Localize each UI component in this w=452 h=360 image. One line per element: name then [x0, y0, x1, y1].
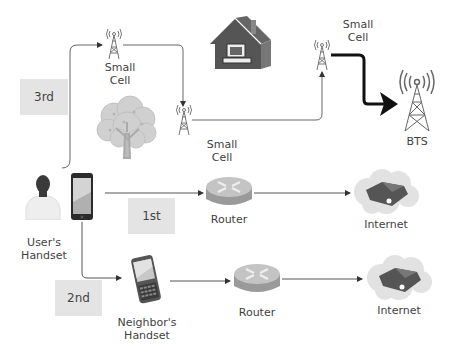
- cell-tower-icon: [173, 104, 195, 136]
- step-second-label: 2nd: [67, 291, 90, 305]
- internet-b-label: Internet: [367, 304, 431, 317]
- router-b-label: Router: [232, 306, 282, 319]
- house-icon: [207, 14, 273, 72]
- person-icon: [24, 172, 62, 220]
- router-a-label: Router: [204, 213, 254, 226]
- pda-phone-icon: [129, 254, 165, 304]
- small-cell-c-line1: Small: [336, 18, 380, 31]
- small-cell-c-line2: Cell: [336, 31, 380, 44]
- router-icon: [232, 262, 282, 296]
- step-first-label: 1st: [142, 209, 161, 223]
- users-handset-line2: Handset: [14, 249, 74, 262]
- router-icon: [204, 175, 254, 209]
- internet-cloud-icon: [352, 168, 420, 216]
- neighbors-handset-line2: Handset: [112, 329, 182, 342]
- small-cell-a-line2: Cell: [98, 74, 142, 87]
- bts-label: BTS: [398, 135, 436, 148]
- users-handset-label: User's Handset: [14, 236, 74, 262]
- users-handset-line1: User's: [14, 236, 74, 249]
- bts-tower-icon: [397, 70, 437, 132]
- smartphone-icon: [70, 172, 96, 222]
- step-first-box: 1st: [128, 198, 175, 234]
- neighbors-handset-label: Neighbor's Handset: [112, 316, 182, 342]
- cell-tower-icon: [103, 28, 125, 60]
- small-cell-b-label: Small Cell: [200, 138, 244, 164]
- small-cell-b-line1: Small: [200, 138, 244, 151]
- tree-icon: [94, 94, 160, 160]
- small-cell-a-line1: Small: [98, 61, 142, 74]
- internet-a-label: Internet: [354, 218, 418, 231]
- step-second-box: 2nd: [55, 280, 102, 316]
- step-third-label: 3rd: [34, 90, 54, 104]
- small-cell-a-label: Small Cell: [98, 61, 142, 87]
- small-cell-c-label: Small Cell: [336, 18, 380, 44]
- neighbors-handset-line1: Neighbor's: [112, 316, 182, 329]
- small-cell-b-line2: Cell: [200, 151, 244, 164]
- internet-cloud-icon: [365, 254, 433, 302]
- step-third-box: 3rd: [20, 79, 68, 115]
- cell-tower-icon: [311, 39, 333, 71]
